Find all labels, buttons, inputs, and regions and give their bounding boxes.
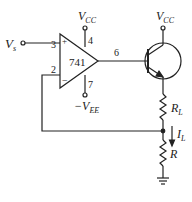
pin6-label: 6	[114, 47, 119, 58]
r-label: R	[169, 147, 178, 161]
sense-resistor-r	[160, 140, 166, 166]
transistor-body	[145, 43, 181, 79]
minus-sign: −	[62, 75, 68, 86]
plus-sign: +	[62, 36, 67, 46]
vs-label: Vs	[5, 36, 16, 53]
load-resistor-rl	[160, 94, 166, 120]
vcc-transistor-terminal	[161, 26, 165, 30]
opamp-label: 741	[69, 56, 86, 68]
circuit-diagram: Vs 3 2 + − 741 4 7 6 VCC −VEE VCC RL IL …	[0, 0, 192, 202]
emitter-arrow-icon	[156, 71, 163, 77]
pin7-label: 7	[88, 79, 93, 90]
vcc-transistor-label: VCC	[156, 9, 175, 25]
vcc-opamp-label: VCC	[78, 9, 97, 25]
vee-label: −VEE	[74, 99, 99, 115]
vee-terminal	[83, 93, 87, 97]
rl-label: RL	[170, 101, 183, 117]
vcc-opamp-terminal	[83, 26, 87, 30]
current-arrow-icon	[170, 140, 175, 146]
il-label: IL	[176, 127, 186, 143]
ground-icon	[157, 178, 169, 184]
vs-terminal	[21, 41, 25, 45]
transistor-collector-lead	[148, 45, 163, 55]
pin3-label: 3	[51, 39, 56, 50]
pin4-label: 4	[88, 35, 93, 46]
pin2-label: 2	[51, 64, 56, 75]
